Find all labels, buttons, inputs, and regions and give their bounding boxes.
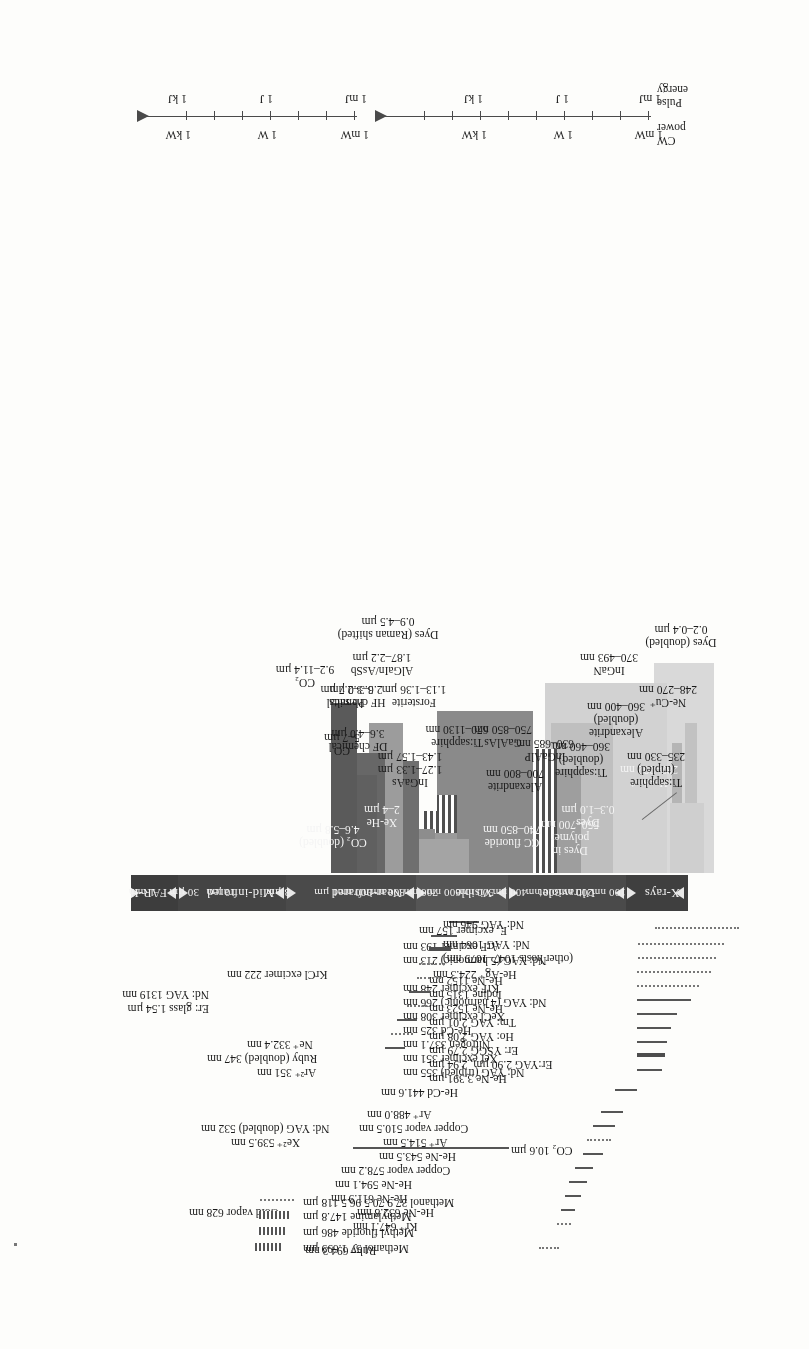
axis-top-tick-5 <box>508 111 509 120</box>
axis-top-tick-3 <box>564 111 565 120</box>
laser-label-hecd-441: He-Cd 441.6 nm <box>381 1086 611 1099</box>
laser-label-ndyag-946: Nd: YAG 946 nm <box>443 918 593 931</box>
axis-top-tick-2 <box>592 111 593 120</box>
laser-line-xef-351 <box>637 1053 665 1057</box>
tick-300nm: 300 nm <box>525 875 560 911</box>
laser-label-ndyag-1319: Nd: YAG 1319 nm <box>19 988 209 1001</box>
tick-10um: 10 µm <box>206 875 236 911</box>
laser-line-hene-3391 <box>385 1047 405 1049</box>
laser-label-ne-332: Ne⁺ 332.4 nm <box>247 1038 417 1051</box>
tick-900nm: 900 nm <box>337 875 372 911</box>
laser-label-hoyag-208: Ho: YAG 2.08 µm <box>429 1030 571 1043</box>
tick-3um: 3 µm <box>266 875 290 911</box>
laser-line-hoyag-208 <box>407 1005 427 1007</box>
laser-line-methanol-571 <box>255 1243 281 1251</box>
laser-line-kr-647 <box>557 1223 571 1225</box>
laser-label-ar2-351: Ar²⁺ 351 nm <box>257 1066 417 1079</box>
band-label-alexandrite: Alexandrite 700–800 nm <box>467 767 563 793</box>
laser-label-ndyag-1064: Nd: YAG 1064 nm <box>443 938 623 951</box>
axis-bottom-tick-5 <box>214 111 215 120</box>
laser-line-ruby-694 <box>539 1247 559 1249</box>
tick-1mm: 1 mm <box>129 875 155 911</box>
laser-line-ar-488 <box>601 1111 623 1113</box>
power-axis-bottom-arrowhead <box>137 110 149 122</box>
spectrum-container: X-rays Ultraviolet Visible Near-infrared… <box>0 0 809 1349</box>
laser-line-copper-510 <box>593 1125 615 1127</box>
laser-line-methylamine-1478 <box>259 1211 289 1219</box>
laser-label-hene-3391: He-Ne 3.391 µm <box>429 1072 571 1085</box>
laser-label-ndyag-other-hosts: (other hosts 1047–1079 nm) <box>443 952 623 965</box>
laser-label-erglass-154: Er: glass 1.54 µm <box>19 1002 209 1015</box>
laser-line-ndyag-355 <box>637 1069 662 1071</box>
axis-bottom-tick-3 <box>270 111 271 120</box>
laser-label-tmyag-201: Tm: YAG 2.01 µm <box>429 1016 571 1029</box>
laser-line-xecl-308 <box>637 1013 677 1015</box>
power-axis-top-arrowhead <box>375 110 387 122</box>
axis-bottom-tick-1 <box>326 111 327 120</box>
axis-top-tick-0 <box>648 111 649 120</box>
axis-bottom-tick-4 <box>242 111 243 120</box>
tick-1um: 1 µm <box>314 875 338 911</box>
tick-400nm: 400 nm <box>492 875 527 911</box>
axis-top-tick-8 <box>424 111 425 120</box>
axis-top-pulse-1kj: 1 kJ <box>464 93 483 105</box>
band-label-dyes-doubled: Dyes (doubled) 0.2–0.4 µm <box>621 623 741 649</box>
band-label-dyes-raman: Dyes (Raman shifted) 0.9–4.5 µm <box>313 615 463 641</box>
axis-bottom-tick-6 <box>186 111 187 120</box>
laser-line-methylfluoride-486 <box>257 1227 285 1235</box>
laser-line-ndyag-266 <box>637 999 691 1001</box>
axis-bottom-pulse-1mj: 1 mJ <box>345 93 367 105</box>
axis-top-tick-7 <box>452 111 453 120</box>
axis-top-pulse-1j: 1 J <box>556 93 569 105</box>
axis-bottom-cw-1mw: 1 mW <box>341 129 369 141</box>
page-corner-mark <box>14 1243 17 1246</box>
laser-label-methylfluoride-486: Methyl fluoride 486 µm <box>303 1226 533 1239</box>
laser-line-heag-224 <box>637 971 711 973</box>
axis-title-pulse-energy: Pulse energy <box>657 83 713 109</box>
laser-line-co2-106 <box>353 1147 509 1149</box>
laser-label-hene-594: He-Ne 594.1 nm <box>335 1178 565 1191</box>
laser-line-nitrogen-337 <box>637 1041 667 1043</box>
laser-line-ndyag-1064 <box>431 935 457 937</box>
laser-label-ndyag-532: Nd: YAG (doubled) 532 nm <box>201 1122 411 1135</box>
laser-line-iodine-1315 <box>419 963 445 965</box>
tick-30um: 30 µm <box>169 875 199 911</box>
laser-line-ar-514 <box>587 1139 611 1141</box>
laser-label-ar-488: Ar⁺ 488.0 nm <box>367 1108 597 1121</box>
laser-line-erysgg-279 <box>397 1019 417 1021</box>
laser-line-arf-193 <box>638 943 724 945</box>
axis-top-cw-1w: 1 W <box>554 129 573 141</box>
laser-label-eryag-290: Er:YAG 2.90 µm, 2.94 µm <box>429 1058 597 1071</box>
laser-label-hene-1523: He-Ne 1523 nm <box>429 1002 577 1015</box>
band-label-co2: CO₂ 9.2–11.4 µm <box>257 663 353 689</box>
axis-top-tick-4 <box>536 111 537 120</box>
band-label-tisapphire: Ti:sapphire 670–1130 nm <box>405 723 509 749</box>
laser-line-krf-248 <box>637 985 699 987</box>
laser-label-ruby-doubled-347: Ruby (doubled) 347 nm <box>207 1052 417 1065</box>
laser-label-krcl-222: KrCl excimer 222 nm <box>227 968 417 981</box>
axis-top-tick-1 <box>620 111 621 120</box>
laser-label-co2-106: CO₂ 10.6 µm <box>511 1144 619 1157</box>
band-label-ingan: InGaN 370–493 nm <box>561 651 657 677</box>
spectrum-tick-row: 100 nm 200 nm 300 nm 400 nm 500 nm 600 n… <box>131 875 688 911</box>
laser-line-tmyag-201 <box>409 991 431 993</box>
band-label-cc-fluoride: CC fluoride 740–850 nm <box>467 823 557 849</box>
laser-line-eryag-290 <box>391 1033 413 1035</box>
axis-top-cw-1kw: 1 kW <box>462 129 487 141</box>
tick-100nm: 100 nm <box>591 875 626 911</box>
laser-line-hene-594 <box>569 1181 587 1183</box>
axis-bottom-pulse-1j: 1 J <box>260 93 273 105</box>
laser-label-copper-578: Copper vapor 578.2 nm <box>341 1164 571 1177</box>
laser-spectrum-figure: X-rays Ultraviolet Visible Near-infrared… <box>0 0 809 1349</box>
tick-500nm: 500 nm <box>459 875 494 911</box>
laser-line-methanol-379 <box>260 1199 294 1201</box>
band-label-co2-doubled: CO₂ (doubled) 4.6–5.8 µm <box>281 823 385 849</box>
laser-label-methylamine-1478: Methylamine 147.8 µm <box>303 1210 533 1223</box>
axis-bottom-cw-1w: 1 W <box>258 129 277 141</box>
laser-line-hecd-325 <box>637 1027 671 1029</box>
laser-label-methanol-571: Methanol 57 1.699 µm <box>303 1242 533 1255</box>
band-label-co: CO 5–7 µm <box>307 731 377 757</box>
laser-line-hene-1152 <box>429 947 451 951</box>
axis-top-tick-6 <box>480 111 481 120</box>
axis-title-cw-power: CW power <box>657 121 713 147</box>
